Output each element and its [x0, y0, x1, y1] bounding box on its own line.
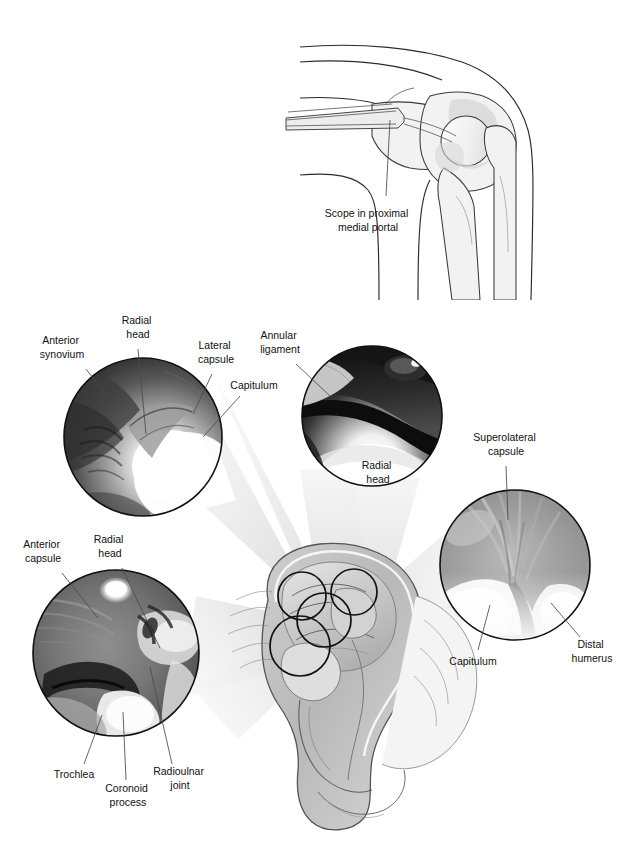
- label-capitulum-top-left: Capitulum: [230, 379, 278, 391]
- label-superolateral-capsule: Superolateral capsule: [473, 431, 538, 457]
- view-superolateral: [440, 490, 590, 640]
- scope-placement-inset: Scope in proximal medial portal: [286, 45, 533, 300]
- label-radial-head-bl: Radial head: [94, 533, 127, 559]
- label-coronoid-process: Coronoid process: [105, 782, 151, 808]
- label-annular-ligament: Annular ligament: [260, 329, 300, 355]
- figure-root: Scope in proximal medial portal: [0, 0, 641, 855]
- label-capitulum-right: Capitulum: [449, 655, 497, 667]
- inset-caption: Scope in proximal medial portal: [325, 207, 411, 233]
- label-lateral-capsule: Lateral capsule: [198, 339, 234, 365]
- label-radioulnar-joint: Radioulnar joint: [153, 765, 207, 791]
- view-ulnohumeral: [33, 570, 201, 736]
- elbow-arthroscopy-figure: Scope in proximal medial portal: [0, 0, 641, 855]
- label-trochlea: Trochlea: [54, 768, 95, 780]
- label-distal-humerus: Distal humerus: [572, 638, 613, 664]
- label-anterior-capsule: Anterior capsule: [23, 538, 63, 564]
- view-anterior-compartment: [64, 358, 238, 524]
- label-anterior-synovium: Anterior synovium: [40, 334, 85, 360]
- label-radial-head-tl: Radial head: [122, 314, 155, 340]
